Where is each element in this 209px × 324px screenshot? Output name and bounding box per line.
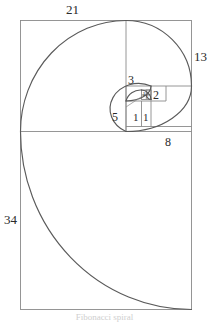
fibonacci-spiral-figure: 21 13 34 8 5 3 2 1 1 1 1 Fibonacci spira… bbox=[0, 0, 209, 324]
label-21: 21 bbox=[66, 3, 79, 16]
spiral-arc-13 bbox=[126, 21, 192, 87]
label-34: 34 bbox=[4, 213, 17, 226]
fibonacci-spiral-curve bbox=[21, 21, 192, 310]
spiral-arc-21 bbox=[21, 21, 127, 132]
square-grid-lines bbox=[21, 21, 192, 310]
label-1-right: 1 bbox=[143, 112, 149, 123]
outer-rectangle bbox=[21, 21, 192, 310]
label-tiny-1-a: 1 bbox=[143, 91, 146, 97]
label-tiny-1-b: 1 bbox=[147, 95, 149, 99]
label-3: 3 bbox=[128, 74, 134, 86]
label-2: 2 bbox=[153, 89, 159, 101]
label-8: 8 bbox=[165, 136, 171, 148]
label-5: 5 bbox=[112, 111, 118, 123]
label-1-left: 1 bbox=[133, 112, 139, 123]
fibonacci-spiral-svg bbox=[0, 0, 209, 324]
figure-caption: Fibonacci spiral bbox=[0, 312, 209, 324]
spiral-arc-34 bbox=[21, 132, 192, 310]
label-13: 13 bbox=[194, 50, 207, 63]
